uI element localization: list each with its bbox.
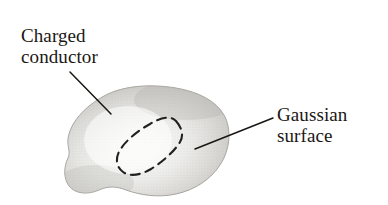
- figure-container: Charged conductor Gaussian surface: [0, 0, 388, 205]
- label-gaussian-surface: Gaussian surface: [277, 104, 347, 146]
- label-gaussian-surface-line-1: Gaussian: [277, 104, 347, 125]
- label-charged-conductor-line-2: conductor: [21, 46, 98, 67]
- label-charged-conductor-line-1: Charged: [21, 25, 98, 46]
- label-gaussian-surface-line-2: surface: [277, 125, 347, 146]
- label-charged-conductor: Charged conductor: [21, 25, 98, 67]
